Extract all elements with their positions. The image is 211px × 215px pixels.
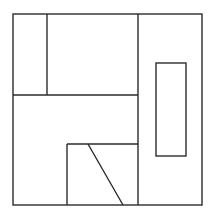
diagram-canvas xyxy=(0,0,211,215)
divider-lines xyxy=(13,14,138,205)
diagonal-line xyxy=(88,144,123,205)
outer-frame xyxy=(13,14,202,205)
inner-rectangle xyxy=(156,63,186,156)
